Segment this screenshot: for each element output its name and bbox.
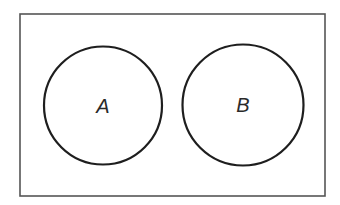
set-b-label: B bbox=[236, 94, 249, 116]
universal-set-rectangle bbox=[20, 14, 325, 196]
venn-diagram-canvas: A B bbox=[0, 0, 340, 205]
venn-diagram: A B bbox=[0, 0, 340, 205]
set-a-label: A bbox=[95, 95, 109, 117]
